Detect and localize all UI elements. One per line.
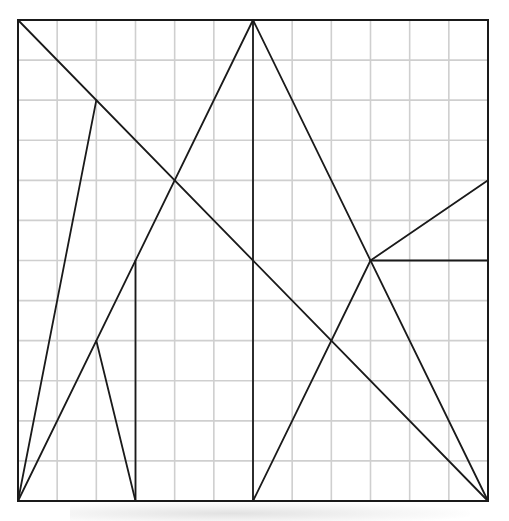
paper-texture — [70, 502, 470, 521]
diagram-canvas — [0, 0, 509, 521]
geometric-grid-figure — [0, 0, 509, 521]
